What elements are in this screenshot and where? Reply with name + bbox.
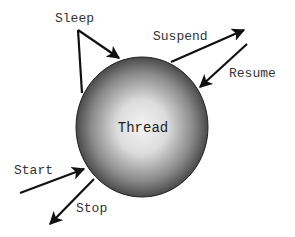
suspend-label: Suspend	[153, 29, 208, 44]
transition-start: Start	[14, 163, 84, 193]
sleep-label: Sleep	[55, 11, 94, 26]
start-label: Start	[14, 163, 53, 178]
thread-state-diagram: Thread Sleep Suspend Resume Start Stop	[0, 0, 295, 237]
sleep-line	[78, 30, 82, 93]
sleep-arrow	[78, 30, 119, 58]
transition-suspend: Suspend	[153, 29, 244, 62]
thread-label: Thread	[118, 120, 168, 136]
transition-resume: Resume	[200, 44, 276, 87]
resume-label: Resume	[229, 66, 276, 81]
transition-stop: Stop	[50, 179, 107, 224]
stop-label: Stop	[76, 201, 107, 216]
